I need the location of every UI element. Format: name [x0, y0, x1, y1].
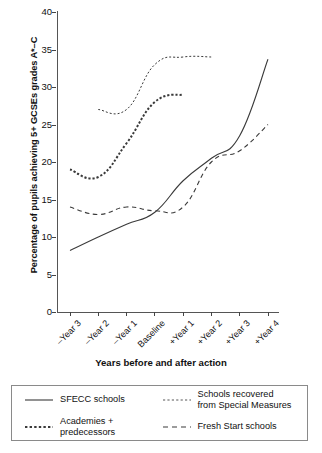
- legend-swatch-dotted-fine-icon: [162, 395, 192, 405]
- chart-figure: Percentage of pupils achieving 5+ GCSEs …: [0, 0, 322, 453]
- legend-item-sfecc-schools: SFECC schools: [12, 394, 160, 405]
- legend-label-academies: Academies + predecessors: [60, 416, 160, 437]
- legend-item-schools-recovered: Schools recovered from Special Measures: [160, 389, 308, 410]
- x-axis-title: Years before and after action: [0, 357, 322, 368]
- series-line-sfecc-schools: [70, 59, 268, 250]
- legend-label-line2: from Special Measures: [198, 400, 292, 410]
- plot-area: Percentage of pupils achieving 5+ GCSEs …: [0, 0, 322, 375]
- legend-label-line1: Schools recovered: [198, 389, 274, 399]
- series-line-academies-predecessors: [70, 95, 183, 179]
- legend-label-fresh-start: Fresh Start schools: [198, 421, 277, 432]
- legend-label-schools-recovered: Schools recovered from Special Measures: [198, 389, 292, 410]
- legend-swatch-solid-icon: [24, 395, 54, 405]
- legend-box: SFECC schools Schools recovered from Spe…: [11, 385, 308, 441]
- legend-item-academies: Academies + predecessors: [12, 416, 160, 437]
- legend-item-fresh-start: Fresh Start schools: [160, 421, 308, 432]
- legend-label-sfecc-schools: SFECC schools: [60, 394, 125, 405]
- legend-swatch-dashed-icon: [162, 422, 192, 432]
- legend-swatch-dotted-thick-icon: [24, 422, 54, 432]
- series-line-schools-recovered-from-special-measures: [98, 56, 211, 114]
